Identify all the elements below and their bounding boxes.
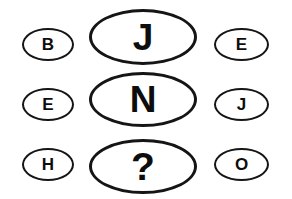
oval-row3-left[interactable]: H	[22, 148, 74, 181]
oval-letter: N	[130, 81, 157, 118]
oval-letter: J	[237, 96, 246, 113]
oval-letter: O	[235, 156, 248, 173]
oval-row2-center[interactable]: N	[89, 72, 197, 127]
oval-row1-right[interactable]: E	[214, 28, 269, 61]
oval-letter: E	[42, 96, 53, 113]
oval-row3-right[interactable]: O	[214, 148, 269, 181]
oval-row1-center[interactable]: J	[89, 9, 197, 65]
oval-letter: J	[133, 19, 154, 56]
oval-letter: H	[42, 156, 54, 173]
oval-row3-center-answer-slot[interactable]: ?	[89, 139, 197, 194]
oval-letter: B	[42, 36, 54, 53]
question-mark-icon: ?	[131, 147, 155, 186]
puzzle-canvas: B J E E N J H ? O	[0, 0, 292, 199]
oval-row2-left[interactable]: E	[22, 88, 74, 121]
oval-row2-right[interactable]: J	[214, 88, 269, 121]
oval-letter: E	[236, 36, 247, 53]
oval-row1-left[interactable]: B	[22, 28, 74, 61]
